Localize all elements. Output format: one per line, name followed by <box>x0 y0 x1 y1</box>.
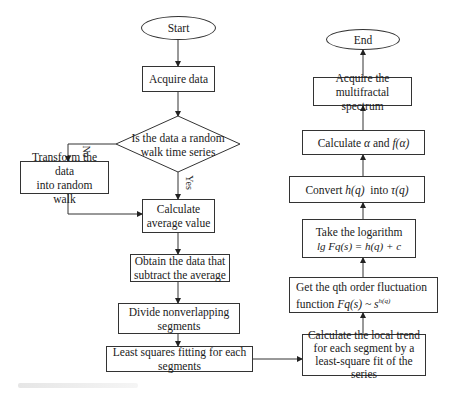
logarithm-formula: lg Fq(s) = h(q) + c <box>317 239 401 253</box>
local-trend-line-2: for each segment by a <box>314 342 415 355</box>
fluctuation-line-2: function Fq(s) ~ sh(q) <box>296 294 390 311</box>
fluctuation-formula: Fq(s) ~ s <box>337 297 378 309</box>
least-squares-line-2: segments <box>158 359 201 373</box>
calc-alpha-prefix: Calculate <box>318 136 361 150</box>
obtain-line-1: Obtain the data that <box>135 254 225 268</box>
start-terminal: Start <box>141 16 216 40</box>
local-trend-step: Calculate the local trend for each segme… <box>302 334 426 376</box>
fluctuation-function-step: Get the qth order fluctuation function F… <box>289 277 438 313</box>
faint-caption <box>18 383 138 388</box>
yes-branch-label: Yes <box>184 175 195 190</box>
convert-step: Convert h(q) into τ(q) <box>289 176 425 203</box>
convert-prefix: Convert <box>305 183 345 197</box>
hq-symbol: h(q) <box>345 183 364 197</box>
calc-average-line-1: Calculate <box>157 202 200 216</box>
local-trend-line-1: Calculate the local trend <box>308 329 420 342</box>
decision-line-2: walk time series <box>126 145 230 159</box>
decision-line-1: Is the data a random <box>126 131 230 145</box>
convert-mid: into <box>365 183 392 197</box>
local-trend-line-3: least-square fit of the series <box>306 355 422 381</box>
transform-line-1: Transform the data <box>24 150 105 178</box>
logarithm-step: Take the logarithm lg Fq(s) = h(q) + c <box>302 219 416 258</box>
calc-average-line-2: average value <box>147 216 211 230</box>
acquire-data-label: Acquire data <box>149 72 208 86</box>
fluctuation-line-1: Get the qth order fluctuation <box>296 280 427 294</box>
calc-alpha-mid: and <box>370 136 392 150</box>
start-label: Start <box>168 21 190 35</box>
calculate-alpha-step: Calculate α and f(α) <box>302 130 425 155</box>
end-label: End <box>354 33 373 47</box>
calculate-average-step: Calculate average value <box>142 199 215 233</box>
divide-line-1: Divide nonverlapping <box>129 305 230 319</box>
least-squares-line-1: Least squares fitting for each <box>113 345 246 359</box>
obtain-line-2: subtract the average <box>134 268 226 282</box>
logarithm-line-1: Take the logarithm <box>316 225 403 239</box>
tau-q-symbol: τ(q) <box>391 183 409 197</box>
divide-segments-step: Divide nonverlapping segments <box>118 303 240 334</box>
spectrum-line-1: Acquire the <box>336 71 390 85</box>
fluctuation-exponent: h(q) <box>379 297 391 305</box>
least-squares-step: Least squares fitting for each segments <box>106 346 253 372</box>
acquire-data-step: Acquire data <box>142 66 215 92</box>
f-alpha-symbol: f(α) <box>392 136 409 150</box>
subtract-average-step: Obtain the data that subtract the averag… <box>130 254 230 282</box>
end-terminal: End <box>326 29 400 50</box>
divide-line-2: segments <box>158 319 201 333</box>
multifractal-spectrum-step: Acquire the multifractal spectrum <box>313 77 412 106</box>
transform-step: Transform the data into random walk <box>20 161 109 194</box>
transform-line-2: into random walk <box>24 178 105 206</box>
fluctuation-prefix: function <box>296 297 337 309</box>
random-walk-decision: Is the data a random walk time series <box>126 131 230 159</box>
spectrum-line-2: multifractal spectrum <box>317 85 408 113</box>
